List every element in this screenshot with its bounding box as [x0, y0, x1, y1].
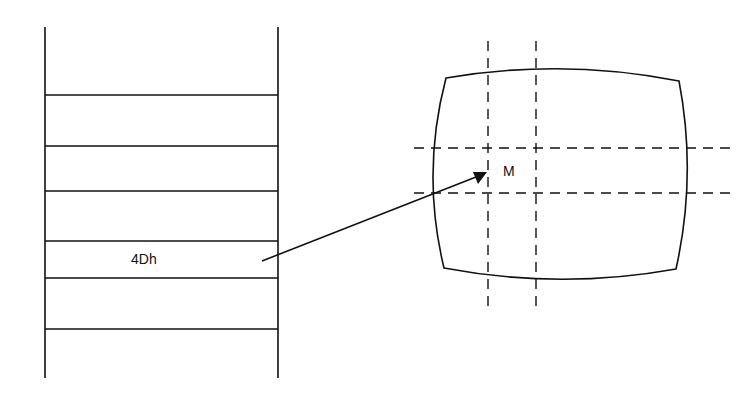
diagram-canvas: 4Dh M	[0, 0, 756, 395]
mapping-arrow	[262, 172, 487, 261]
cell-label-4dh: 4Dh	[131, 252, 157, 266]
diagram-graphics	[0, 0, 756, 395]
guide-lines	[414, 41, 731, 307]
memory-table	[45, 27, 278, 378]
point-label-m: M	[503, 164, 515, 178]
screen-outline	[433, 69, 687, 280]
